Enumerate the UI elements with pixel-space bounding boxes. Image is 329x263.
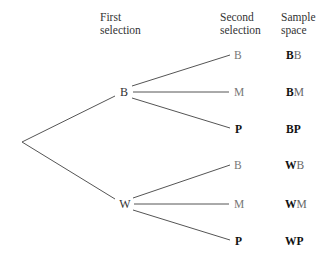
outcome-bp: BP: [286, 123, 301, 135]
outcome-wp-first: W: [285, 235, 297, 247]
header-sample-space: Sample space: [281, 11, 316, 37]
outcome-bb-first: B: [286, 49, 294, 61]
outcome-wp: WP: [285, 235, 304, 247]
outcome-bb-second: B: [294, 49, 302, 61]
leaf-b-b: B: [234, 49, 242, 61]
outcome-wm-first: W: [285, 198, 297, 210]
outcome-bp-first: B: [286, 123, 294, 135]
outcome-wm: WM: [285, 198, 307, 210]
header-first-selection: First selection: [100, 11, 141, 37]
outcome-bm-second: M: [294, 86, 304, 98]
leaf-w-b: B: [234, 159, 242, 171]
outcome-bm: BM: [286, 86, 304, 98]
leaf-w-p: P: [235, 235, 242, 247]
outcome-bb: BB: [286, 49, 301, 61]
outcome-wb-first: W: [285, 159, 297, 171]
outcome-wm-second: M: [297, 198, 307, 210]
header-sample-line1: Sample: [281, 11, 316, 24]
branch-w-to-b: [133, 165, 230, 198]
header-second-selection: Second selection: [220, 11, 261, 37]
header-first-line1: First: [100, 11, 141, 24]
outcome-wp-second: P: [297, 235, 304, 247]
header-sample-line2: space: [281, 24, 316, 37]
outcome-wb: WB: [285, 159, 304, 171]
outcome-bm-first: B: [286, 86, 294, 98]
branch-w-to-p: [133, 210, 230, 240]
header-first-line2: selection: [100, 24, 141, 37]
leaf-b-m: M: [234, 86, 244, 98]
branch-root-to-b: [22, 96, 115, 142]
node-first-b: B: [120, 86, 128, 98]
header-second-line2: selection: [220, 24, 261, 37]
leaf-w-m: M: [234, 198, 244, 210]
outcome-wb-second: B: [297, 159, 305, 171]
outcome-bp-second: P: [294, 123, 301, 135]
tree-branches: [0, 0, 329, 263]
branch-b-to-p: [132, 98, 230, 128]
header-second-line1: Second: [220, 11, 261, 24]
node-first-w: W: [119, 198, 130, 210]
leaf-b-p: P: [235, 123, 242, 135]
branch-root-to-w: [22, 142, 115, 199]
branch-b-to-b: [132, 55, 230, 86]
